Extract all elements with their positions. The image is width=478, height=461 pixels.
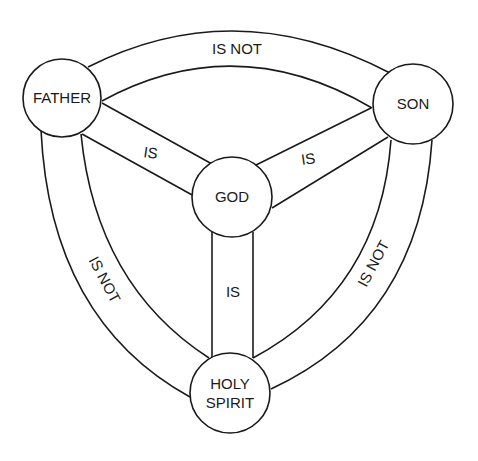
- edge-label-father-god: IS: [143, 143, 159, 162]
- node-label-son: SON: [397, 95, 430, 112]
- spoke-holy-spirit-god: IS: [212, 232, 253, 358]
- trinity-diagram: IS NOT IS NOT IS NOT IS IS IS FATHER SON: [0, 0, 478, 461]
- band-son-holy-spirit: IS NOT: [253, 140, 432, 389]
- node-label-god: GOD: [215, 188, 249, 205]
- node-label-holy-spirit-line1: HOLY: [210, 375, 250, 392]
- spoke-son-god: IS: [256, 108, 388, 208]
- node-label-father: FATHER: [33, 89, 91, 106]
- spoke-father-god: IS: [82, 103, 212, 196]
- node-father: FATHER: [23, 59, 101, 137]
- band-father-holy-spirit: IS NOT: [41, 130, 209, 397]
- edge-label-son-god: IS: [300, 149, 316, 168]
- node-son: SON: [373, 64, 453, 144]
- node-holy-spirit: HOLY SPIRIT: [190, 353, 270, 433]
- edge-label-father-son: IS NOT: [212, 40, 262, 57]
- edge-label-son-holy-spirit: IS NOT: [354, 237, 392, 289]
- node-label-holy-spirit-line2: SPIRIT: [206, 394, 254, 411]
- band-father-son: IS NOT: [88, 31, 390, 108]
- edge-label-holy-spirit-god: IS: [226, 283, 240, 300]
- node-god: GOD: [192, 157, 272, 237]
